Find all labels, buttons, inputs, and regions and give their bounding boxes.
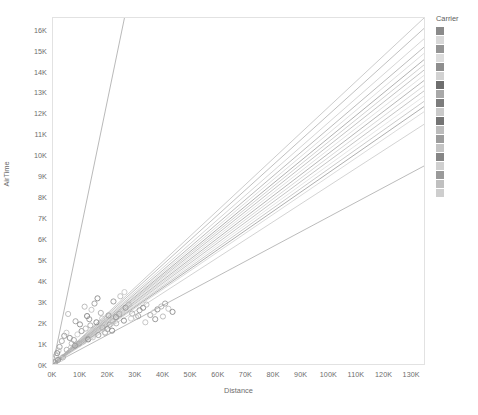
legend-swatch[interactable] [436,99,444,107]
legend-swatch[interactable] [436,171,444,179]
trend-line [53,39,424,364]
y-axis-ticks: 0K1K2K3K4K5K6K7K8K9K10K11K12K13K14K15K16… [0,17,47,365]
legend-swatch[interactable] [436,63,444,71]
scatter-point [121,318,126,323]
legend-swatch[interactable] [436,54,444,62]
legend-swatch[interactable] [436,189,444,197]
x-axis-title: Distance [52,386,425,395]
y-tick-label: 10K [34,151,47,160]
trend-line [53,112,424,364]
y-tick-label: 15K [34,46,47,55]
y-tick-label: 5K [38,256,47,265]
x-tick-label: 40K [156,370,169,379]
scatter-point [118,294,123,299]
x-tick-label: 10K [73,370,86,379]
legend-swatch[interactable] [436,126,444,134]
y-tick-label: 9K [38,172,47,181]
legend-swatch[interactable] [436,153,444,161]
scatter-point [66,311,71,316]
scatter-point [88,323,93,328]
trend-line [53,28,424,364]
legend-swatch[interactable] [436,162,444,170]
y-tick-label: 6K [38,235,47,244]
scatter-point [59,338,64,343]
scatter-point [148,312,153,317]
y-tick-label: 3K [38,298,47,307]
trend-lines-layer [53,18,424,364]
legend-swatch[interactable] [436,144,444,152]
trend-line [53,101,424,364]
y-tick-label: 13K [34,88,47,97]
x-tick-label: 0K [48,370,57,379]
trend-line [53,70,424,364]
trend-line [53,96,424,364]
y-tick-label: 11K [34,130,47,139]
scatter-points-layer [53,290,175,364]
scatter-point [128,316,133,321]
y-tick-label: 0K [38,361,47,370]
x-tick-label: 60K [211,370,224,379]
trend-line [53,18,424,364]
legend-swatch[interactable] [436,45,444,53]
y-axis-title: AirTime [2,161,11,186]
y-tick-label: 1K [38,340,47,349]
scatter-point [94,320,99,325]
y-tick-label: 4K [38,277,47,286]
x-tick-label: 100K [320,370,337,379]
legend-swatch[interactable] [436,81,444,89]
legend-swatch[interactable] [436,90,444,98]
scatter-point [170,309,175,314]
scatter-point [82,304,87,309]
trend-line [53,75,424,364]
scatter-point [92,301,97,306]
x-tick-label: 110K [348,370,365,379]
x-tick-label: 70K [239,370,252,379]
trend-line [53,81,424,364]
legend-title: Carrier [436,14,478,23]
x-tick-label: 120K [375,370,392,379]
scatter-point [111,299,116,304]
x-tick-label: 20K [101,370,114,379]
trend-line [53,91,424,364]
trend-line [53,124,424,364]
y-tick-label: 7K [38,214,47,223]
plot-canvas [53,18,424,364]
y-tick-label: 16K [34,25,47,34]
y-tick-label: 2K [38,319,47,328]
x-tick-label: 90K [294,370,307,379]
scatter-point [98,310,103,315]
scatter-point [89,307,94,312]
y-tick-label: 14K [34,67,47,76]
scatter-point [122,290,127,295]
scatter-chart: 0K1K2K3K4K5K6K7K8K9K10K11K12K13K14K15K16… [0,0,478,415]
scatter-point [143,320,148,325]
trend-line [53,65,424,364]
legend-swatch[interactable] [436,27,444,35]
scatter-point [160,314,165,319]
x-tick-label: 80K [266,370,279,379]
y-tick-label: 8K [38,193,47,202]
trend-line [53,166,424,364]
trend-line [53,53,424,364]
scatter-point [77,322,82,327]
legend-swatch[interactable] [436,36,444,44]
legend-swatch[interactable] [436,72,444,80]
legend-swatch[interactable] [436,135,444,143]
x-tick-label: 30K [128,370,141,379]
legend: Carrier [433,14,478,197]
y-tick-label: 12K [34,109,47,118]
scatter-point [153,317,158,322]
scatter-point [95,296,100,301]
legend-swatch[interactable] [436,180,444,188]
legend-swatch[interactable] [436,108,444,116]
plot-area [52,17,425,365]
legend-swatch[interactable] [436,117,444,125]
x-tick-label: 50K [184,370,197,379]
x-axis-ticks: 0K10K20K30K40K50K60K70K80K90K100K110K120… [52,370,425,384]
trend-line [53,107,424,364]
scatter-point [83,326,88,331]
legend-swatch-list [436,27,478,197]
x-tick-label: 130K [403,370,420,379]
